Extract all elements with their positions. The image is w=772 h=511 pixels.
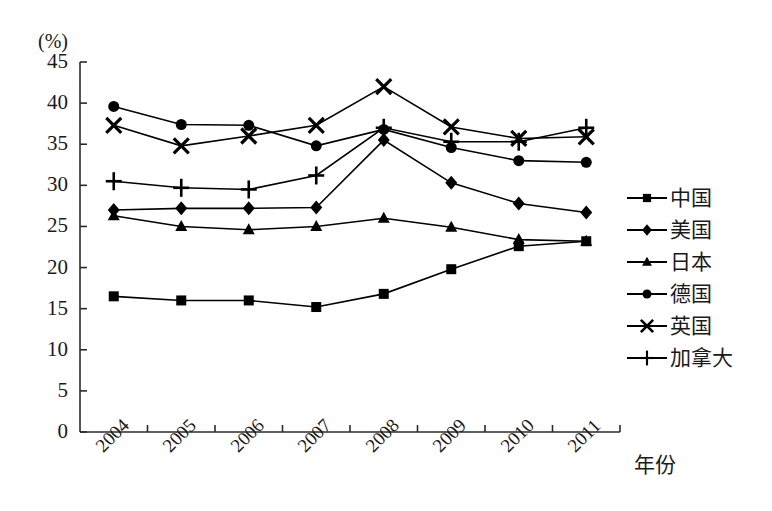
y-tick-label: 10 (28, 339, 68, 360)
legend-item-square[interactable]: 中国 (626, 182, 733, 214)
legend-item-plus[interactable]: 加拿大 (626, 342, 733, 374)
legend-item-circle[interactable]: 德国 (626, 278, 733, 310)
chart-axes (80, 62, 620, 432)
y-tick-label: 40 (28, 92, 68, 113)
legend-label: 德国 (668, 284, 712, 305)
circle-marker-icon (626, 283, 668, 305)
y-tick-label: 20 (28, 257, 68, 278)
y-tick-label: 25 (28, 215, 68, 236)
legend-label: 中国 (668, 188, 712, 209)
legend-label: 加拿大 (668, 348, 733, 369)
y-tick-label: 0 (28, 421, 68, 442)
legend-label: 英国 (668, 316, 712, 337)
y-tick-label: 15 (28, 298, 68, 319)
legend-item-cross[interactable]: 英国 (626, 310, 733, 342)
plus-marker-icon (626, 347, 668, 369)
square-marker-icon (626, 187, 668, 209)
y-tick-label: 30 (28, 174, 68, 195)
legend-item-triangle[interactable]: 日本 (626, 246, 733, 278)
y-axis-ticks (80, 62, 87, 432)
y-tick-label: 35 (28, 133, 68, 154)
x-axis-title: 年份 (634, 448, 676, 478)
legend-label: 日本 (668, 252, 712, 273)
legend-item-diamond[interactable]: 美国 (626, 214, 733, 246)
chart-legend: 中国美国日本德国英国加拿大 (626, 182, 733, 374)
triangle-marker-icon (626, 251, 668, 273)
cross-marker-icon (626, 315, 668, 337)
y-tick-label: 5 (28, 380, 68, 401)
y-tick-label: 45 (28, 51, 68, 72)
chart-container: (%) 051015202530354045 20042005200620072… (0, 0, 772, 511)
chart-series-0 (109, 236, 592, 312)
legend-label: 美国 (668, 220, 712, 241)
chart-series-2 (108, 209, 593, 245)
diamond-marker-icon (626, 219, 668, 241)
